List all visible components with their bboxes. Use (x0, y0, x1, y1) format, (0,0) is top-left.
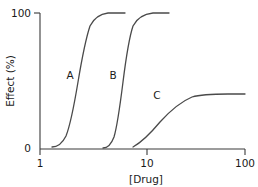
curve-label-b: B (109, 69, 116, 81)
x-axis-title: [Drug] (129, 173, 163, 185)
x-tick-label-10: 10 (140, 157, 153, 169)
curve-c (133, 94, 245, 147)
x-tick-label-100: 100 (235, 157, 255, 169)
y-tick-label-0: 0 (24, 142, 31, 154)
y-tick-label-100: 100 (11, 7, 31, 19)
curve-label-a: A (66, 69, 74, 81)
curve-label-c: C (153, 89, 160, 101)
y-axis-title: Effect (%) (4, 55, 16, 107)
dose-response-chart: 100 0 1 10 100 [Drug] Effect (%) A B C (0, 0, 258, 187)
x-tick-label-1: 1 (37, 157, 44, 169)
chart-page: 100 0 1 10 100 [Drug] Effect (%) A B C (0, 0, 258, 187)
